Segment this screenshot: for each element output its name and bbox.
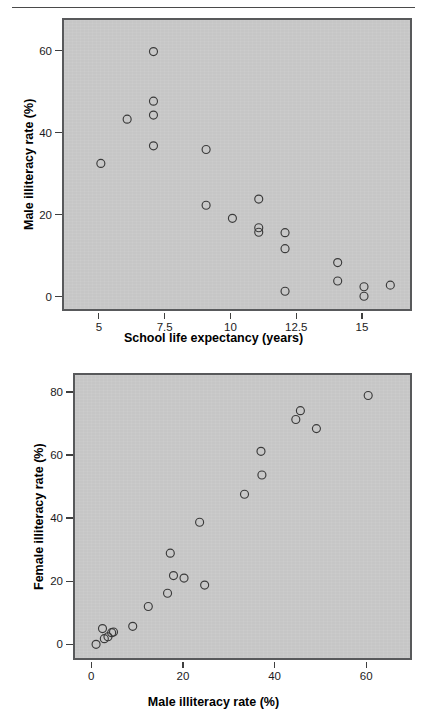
- header-divider-rule: [12, 7, 415, 8]
- data-point: [202, 145, 210, 153]
- x-tick-mark: [98, 313, 99, 319]
- data-point: [281, 229, 289, 237]
- data-point: [281, 287, 289, 295]
- y-tick-label: 60: [20, 45, 52, 57]
- y-tick-mark: [55, 214, 62, 215]
- y-tick-mark: [55, 50, 62, 51]
- y-tick-mark: [66, 517, 73, 518]
- plot-area-1: [62, 18, 412, 311]
- y-tick-mark: [66, 581, 73, 582]
- data-point: [123, 115, 131, 123]
- data-point: [201, 581, 209, 589]
- y-tick-label: 0: [31, 638, 63, 650]
- data-points-layer-1: [64, 20, 412, 311]
- data-point: [296, 407, 304, 415]
- x-tick-mark: [361, 313, 362, 319]
- data-point: [149, 111, 157, 119]
- y-tick-mark: [66, 454, 73, 455]
- data-point: [169, 572, 177, 580]
- x-tick-label: 20: [177, 670, 190, 682]
- data-point: [149, 97, 157, 105]
- data-point: [164, 589, 172, 597]
- y-tick-mark: [55, 132, 62, 133]
- x-tick-label: 0: [88, 670, 94, 682]
- data-point: [180, 574, 188, 582]
- x-axis-title-2: Male illiteracy rate (%): [0, 695, 427, 709]
- data-point: [364, 392, 372, 400]
- data-points-layer-2: [75, 375, 412, 660]
- y-tick-mark: [55, 296, 62, 297]
- x-axis-title-1: School life expectancy (years): [0, 331, 427, 345]
- data-point: [196, 518, 204, 526]
- data-point: [360, 292, 368, 300]
- plot-area-2: [73, 373, 412, 660]
- data-point: [334, 277, 342, 285]
- scatter-figure-female-vs-male-illiteracy: 0204060020406080 Male illiteracy rate (%…: [0, 355, 427, 719]
- data-point: [360, 283, 368, 291]
- x-tick-mark: [274, 662, 275, 668]
- y-tick-mark: [66, 644, 73, 645]
- data-point: [386, 281, 394, 289]
- data-point: [255, 195, 263, 203]
- x-tick-label: 60: [360, 670, 373, 682]
- page-header-strip: [0, 0, 427, 10]
- data-point: [149, 48, 157, 56]
- y-tick-label: 80: [31, 386, 63, 398]
- data-point: [292, 415, 300, 423]
- data-point: [92, 640, 100, 648]
- data-point: [241, 490, 249, 498]
- data-point: [149, 142, 157, 150]
- data-point: [97, 159, 105, 167]
- data-point: [258, 471, 266, 479]
- data-point: [166, 549, 174, 557]
- data-point: [129, 622, 137, 630]
- data-point: [257, 447, 265, 455]
- y-axis-title-2: Female illiteracy rate (%): [32, 443, 46, 590]
- x-tick-mark: [296, 313, 297, 319]
- data-point: [144, 602, 152, 610]
- y-axis-title-1: Male illiteracy rate (%): [22, 99, 36, 230]
- data-point: [228, 214, 236, 222]
- data-point: [312, 425, 320, 433]
- figure-page: 57.51012.5150204060 School life expectan…: [0, 0, 427, 719]
- x-tick-label: 40: [268, 670, 281, 682]
- x-tick-mark: [91, 662, 92, 668]
- x-tick-mark: [182, 662, 183, 668]
- data-point: [334, 259, 342, 267]
- data-point: [281, 245, 289, 253]
- data-point: [202, 201, 210, 209]
- x-tick-mark: [164, 313, 165, 319]
- y-tick-label: 0: [20, 291, 52, 303]
- x-tick-mark: [366, 662, 367, 668]
- y-tick-mark: [66, 391, 73, 392]
- data-point: [98, 625, 106, 633]
- scatter-figure-male-illiteracy-vs-school-life: 57.51012.5150204060 School life expectan…: [0, 10, 427, 350]
- x-tick-mark: [230, 313, 231, 319]
